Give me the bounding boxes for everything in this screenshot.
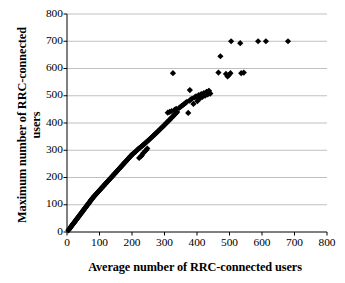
data-point	[217, 53, 223, 59]
scatter-chart-figure: Maximum number of RRC-connected users 01…	[0, 0, 345, 283]
data-point	[170, 70, 176, 76]
data-point	[285, 38, 291, 44]
x-tick-label: 800	[307, 236, 345, 248]
data-point	[255, 38, 261, 44]
data-point	[187, 87, 193, 93]
data-point	[228, 38, 234, 44]
data-point	[263, 38, 269, 44]
x-axis-tick-labels: 0100200300400500600700800	[0, 236, 345, 252]
data-points	[65, 38, 291, 233]
data-point	[185, 110, 191, 116]
x-axis-label: Average number of RRC-connected users	[55, 260, 335, 275]
x-axis-tick-marks	[67, 232, 327, 236]
data-point	[215, 69, 221, 75]
y-axis-tick-marks	[64, 14, 68, 232]
